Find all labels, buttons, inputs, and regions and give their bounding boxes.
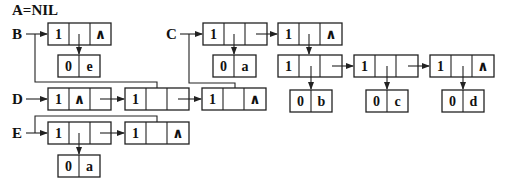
tail-null-cell: ∧ (325, 27, 336, 42)
head-null-cell: ∧ (74, 92, 85, 107)
head-label-d: D (12, 91, 23, 107)
head-label-e: E (12, 125, 22, 141)
generalized-list-diagram: A=NIL B C D E 1 ∧ 0 e 1 0 a (0, 0, 508, 190)
atom-sc: 0 c (366, 90, 408, 112)
tail-null-cell: ∧ (172, 126, 183, 141)
atom-cell: c (394, 94, 400, 109)
atom-cell: b (318, 94, 326, 109)
atom-sb: 0 b (290, 90, 332, 112)
atom-cell: e (86, 59, 92, 74)
title-text: A=NIL (12, 2, 58, 18)
atom-ca: 0 a (213, 55, 256, 77)
tail-null-cell: ∧ (249, 92, 260, 107)
tag-cell: 0 (373, 94, 380, 109)
node-c2: 1 ∧ (278, 23, 342, 45)
tag-cell: 0 (65, 159, 72, 174)
tag-cell: 1 (285, 27, 292, 42)
tag-cell: 0 (297, 94, 304, 109)
head-label-c: C (166, 26, 177, 42)
tag-cell: 1 (361, 59, 368, 74)
tail-null-cell: ∧ (95, 27, 106, 42)
atom-ea: 0 a (58, 155, 100, 177)
head-label-b: B (12, 26, 22, 42)
node-d3: 1 ∧ (202, 88, 266, 110)
tag-cell: 1 (209, 92, 216, 107)
atom-be: 0 e (58, 55, 100, 77)
node-s3: 1 ∧ (430, 55, 494, 77)
node-e2: 1 ∧ (125, 122, 189, 144)
atom-sd: 0 d (442, 90, 484, 112)
tag-cell: 1 (285, 59, 292, 74)
tag-cell: 1 (132, 92, 139, 107)
atom-cell: d (470, 94, 478, 109)
atom-cell: a (86, 159, 93, 174)
atom-cell: a (242, 59, 249, 74)
tag-cell: 1 (55, 92, 62, 107)
tag-cell: 1 (437, 59, 444, 74)
tag-cell: 1 (55, 27, 62, 42)
tag-cell: 1 (55, 126, 62, 141)
tag-cell: 0 (65, 59, 72, 74)
tag-cell: 1 (210, 27, 217, 42)
tag-cell: 1 (132, 126, 139, 141)
tag-cell: 0 (449, 94, 456, 109)
tag-cell: 0 (220, 59, 227, 74)
tail-null-cell: ∧ (477, 59, 488, 74)
